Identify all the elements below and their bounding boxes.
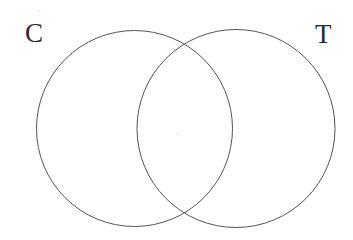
venn-label-c: C	[25, 20, 43, 47]
venn-region-intersection[interactable]	[152, 70, 218, 188]
venn-region-c-only[interactable]	[40, 60, 130, 190]
scan-artifact-speck	[177, 133, 179, 135]
venn-label-t: T	[315, 21, 332, 48]
venn-diagram-page: C T	[0, 0, 353, 240]
scan-artifact-speck	[38, 10, 40, 12]
venn-region-t-only[interactable]	[240, 60, 330, 190]
